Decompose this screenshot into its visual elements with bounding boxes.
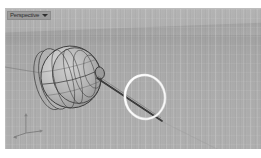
ring-curve[interactable]: [122, 72, 168, 122]
chevron-down-icon[interactable]: [42, 14, 48, 17]
viewport-title-tab[interactable]: Perspective: [7, 11, 51, 20]
world-axis-indicator: [13, 111, 47, 141]
application-window: Perspective: [0, 0, 261, 158]
perspective-viewport[interactable]: Perspective: [5, 8, 261, 149]
ground-seam-line: [163, 122, 219, 149]
viewport-title-label: Perspective: [10, 12, 39, 19]
